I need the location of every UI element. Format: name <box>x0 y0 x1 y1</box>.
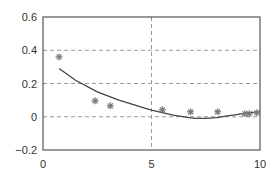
asterisk-marker <box>92 97 99 104</box>
x-tick-label: 10 <box>254 158 266 170</box>
fit-line <box>59 69 260 119</box>
x-axis-tick-labels: 0510 <box>40 158 266 170</box>
y-tick-label: 0.4 <box>22 44 37 56</box>
y-tick-label: −0.2 <box>15 144 37 156</box>
y-tick-label: 0.6 <box>22 11 37 23</box>
y-tick-label: 0 <box>31 111 37 123</box>
x-tick-label: 0 <box>40 158 46 170</box>
asterisk-marker <box>253 109 260 116</box>
asterisk-marker <box>246 110 253 117</box>
x-tick-label: 5 <box>148 158 154 170</box>
grid-lines <box>43 17 260 150</box>
asterisk-marker <box>107 102 114 109</box>
asterisk-marker <box>56 53 63 60</box>
y-axis-tick-labels: −0.200.20.40.6 <box>15 11 37 156</box>
fit-curve <box>59 69 260 119</box>
y-tick-label: 0.2 <box>22 78 37 90</box>
asterisk-marker <box>159 106 166 113</box>
asterisk-marker <box>187 108 194 115</box>
asterisk-marker <box>214 108 221 115</box>
chart: −0.200.20.40.6 0510 <box>0 0 275 177</box>
